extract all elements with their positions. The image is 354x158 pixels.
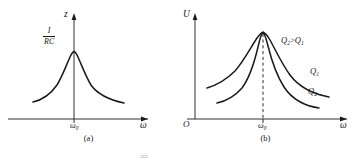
panel-a: z ω ω0 I RC (a): [0, 0, 177, 158]
panel-b-inequality-annotation: Q2>Q1: [281, 36, 304, 46]
panel-a-peak-numerator: I: [43, 27, 55, 36]
panel-b-curve-label-q1: Q1: [310, 67, 319, 77]
panel-a-x-tick-label: ω0: [70, 122, 78, 131]
annotation-right-subscript: 1: [301, 40, 304, 46]
curve-label-q2-subscript: 2: [314, 91, 317, 97]
panel-a-x-axis: [8, 117, 148, 122]
panel-b-curve-label-q2: Q2: [308, 87, 317, 97]
panel-b-x-tick-subscript: 0: [264, 125, 267, 131]
panel-a-peak-denominator: RC: [43, 38, 55, 47]
figure-root: z ω ω0 I RC (a): [0, 0, 354, 158]
panel-a-caption: (a): [0, 133, 177, 143]
panel-a-x-tick-subscript: 0: [76, 125, 79, 131]
panel-a-peak-value-label: I RC: [43, 27, 55, 47]
panel-b-x-axis: [187, 117, 347, 122]
panel-b-y-axis: [193, 13, 198, 119]
panel-b-caption: (b): [177, 133, 354, 143]
panel-a-resonance-curve: [33, 52, 124, 104]
panel-b-y-axis-label: U: [183, 10, 190, 20]
panel-a-x-axis-label: ω: [140, 121, 147, 131]
curve-label-q1-subscript: 1: [316, 71, 319, 77]
panel-a-y-axis-label: z: [64, 10, 68, 20]
panel-b-x-tick-label: ω0: [258, 122, 266, 131]
panel-a-y-axis: [72, 13, 77, 119]
bottom-caption-sliver: 图 ··········· ·· ······ ···: [0, 153, 354, 158]
panel-b-origin-label: O: [183, 120, 190, 129]
panel-b: U O ω ω0 Q2>Q1 Q1 Q2 (b): [177, 0, 354, 158]
panel-b-x-axis-label: ω: [340, 121, 347, 131]
